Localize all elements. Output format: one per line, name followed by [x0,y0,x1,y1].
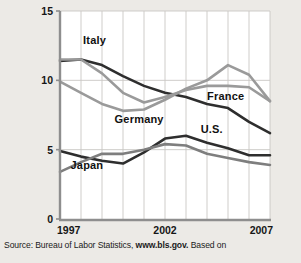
source-suffix: Based on [188,240,226,250]
source-prefix: Source: Bureau of Labor Statistics, [4,240,136,250]
figure-container: Unemployment rate (percent) 051015 19972… [0,0,301,263]
y-tick-label: 15 [41,5,53,17]
x-tick-label: 2002 [153,224,177,236]
series-label-germany: Germany [115,113,165,125]
series-label-france: France [207,90,244,102]
y-tick-label: 10 [41,74,53,86]
series-label-us: U.S. [201,123,223,135]
y-tick-label: 0 [47,213,53,225]
x-tick-label: 1997 [57,224,81,236]
source-link: www.bls.gov. [136,240,189,250]
series-label-japan: Japan [71,159,104,171]
unemployment-line-chart: 051015 199720022007 ItalyGermanyFranceU.… [0,0,301,263]
source-caption: Source: Bureau of Labor Statistics, www.… [4,240,299,250]
x-tick-label: 2007 [250,224,274,236]
y-tick-label: 5 [47,144,53,156]
series-label-italy: Italy [83,34,107,46]
